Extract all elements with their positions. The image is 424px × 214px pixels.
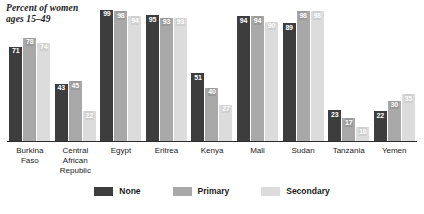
bar-slot: 99 — [100, 9, 113, 141]
bar-slot: 22 — [83, 9, 96, 141]
bar — [297, 11, 310, 140]
bar-value-label: 98 — [117, 11, 125, 20]
legend-label: None — [119, 186, 140, 196]
bar-group: 899898 — [280, 9, 326, 141]
bar-slot: 27 — [219, 9, 232, 141]
category-label: Eritrea — [144, 146, 190, 156]
bar — [146, 15, 159, 140]
bar-slot: 51 — [191, 9, 204, 141]
bar-group: 231710 — [326, 9, 372, 141]
bar-group: 949490 — [235, 9, 281, 141]
bar-value-label: 98 — [313, 11, 321, 20]
bar-value-label: 10 — [358, 127, 366, 136]
bar-value-label: 89 — [285, 23, 293, 32]
bar — [283, 23, 296, 140]
chart-legend: NonePrimarySecondary — [0, 186, 424, 210]
bar-group: 514027 — [189, 9, 235, 141]
bar — [191, 73, 204, 140]
bar-slot: 98 — [114, 9, 127, 141]
x-axis-line — [7, 141, 417, 143]
category-label: Tanzania — [326, 146, 372, 156]
bar-slot: 93 — [174, 9, 187, 141]
bar — [69, 81, 82, 140]
bar — [55, 84, 68, 141]
legend-item-none: None — [94, 186, 140, 196]
bar-group: 717874 — [7, 9, 53, 141]
category-label: Mali — [235, 146, 281, 156]
bar-slot: 43 — [55, 9, 68, 141]
bar-slot: 45 — [69, 9, 82, 141]
bar — [9, 47, 22, 141]
category-label: Egypt — [98, 146, 144, 156]
bar-value-label: 95 — [148, 15, 156, 24]
legend-item-primary: Primary — [173, 186, 230, 196]
bar — [128, 16, 141, 140]
bar-value-label: 27 — [222, 105, 230, 114]
bar-value-label: 23 — [330, 110, 338, 119]
bar — [23, 38, 36, 141]
category-label: Central African Republic — [53, 146, 99, 176]
category-axis-labels: Burkina FasoCentral African RepublicEgyp… — [7, 146, 417, 180]
bar-slot: 10 — [356, 9, 369, 141]
bar-group: 999894 — [98, 9, 144, 141]
legend-swatch-primary — [173, 187, 192, 196]
legend-swatch-secondary — [261, 187, 280, 196]
bar-value-label: 98 — [299, 11, 307, 20]
bar-slot: 17 — [342, 9, 355, 141]
bar-value-label: 74 — [40, 43, 48, 52]
bar-value-label: 93 — [162, 18, 170, 27]
bar-slot: 90 — [265, 9, 278, 141]
bar-value-label: 51 — [194, 73, 202, 82]
bar-slot: 30 — [388, 9, 401, 141]
bar — [160, 18, 173, 141]
legend-item-secondary: Secondary — [261, 186, 329, 196]
bar-slot: 93 — [160, 9, 173, 141]
bar-slot: 98 — [297, 9, 310, 141]
bar-value-label: 78 — [26, 38, 34, 47]
category-label: Burkina Faso — [7, 146, 53, 166]
bar-slot: 40 — [205, 9, 218, 141]
bar-value-label: 30 — [390, 101, 398, 110]
bar-slot: 94 — [251, 9, 264, 141]
bar-slot: 94 — [128, 9, 141, 141]
legend-label: Primary — [198, 186, 230, 196]
bar-chart-figure: Percent of women ages 15–49 717874434522… — [0, 0, 424, 214]
bar-value-label: 22 — [376, 111, 384, 120]
bar-slot: 23 — [328, 9, 341, 141]
plot-area: 7178744345229998949593935140279494908998… — [7, 8, 417, 142]
bar-value-label: 40 — [208, 88, 216, 97]
bar-slot: 35 — [402, 9, 415, 141]
bar-slot: 71 — [9, 9, 22, 141]
bar — [265, 22, 278, 141]
bar-value-label: 17 — [344, 118, 352, 127]
bar-slot: 94 — [237, 9, 250, 141]
bar-value-label: 22 — [85, 111, 93, 120]
bar — [311, 11, 324, 140]
bar-group: 223035 — [371, 9, 417, 141]
bar-value-label: 45 — [71, 81, 79, 90]
category-label: Kenya — [189, 146, 235, 156]
bar-group: 959393 — [144, 9, 190, 141]
bar-slot: 89 — [283, 9, 296, 141]
bar-slot: 95 — [146, 9, 159, 141]
category-label: Sudan — [280, 146, 326, 156]
bar-slot: 22 — [374, 9, 387, 141]
bar-slot: 74 — [37, 9, 50, 141]
bar-value-label: 99 — [103, 10, 111, 19]
bar — [251, 16, 264, 140]
bar — [174, 18, 187, 141]
legend-label: Secondary — [286, 186, 329, 196]
bar — [114, 11, 127, 140]
bar — [237, 16, 250, 140]
bar — [37, 43, 50, 141]
bar-value-label: 43 — [57, 84, 65, 93]
bar-value-label: 71 — [12, 47, 20, 56]
bar-slot: 98 — [311, 9, 324, 141]
bar-value-label: 35 — [404, 94, 412, 103]
bar-value-label: 94 — [253, 16, 261, 25]
bar-value-label: 93 — [176, 18, 184, 27]
category-label: Yemen — [371, 146, 417, 156]
bar-value-label: 90 — [267, 22, 275, 31]
bar-value-label: 94 — [239, 16, 247, 25]
bar-value-label: 94 — [131, 16, 139, 25]
